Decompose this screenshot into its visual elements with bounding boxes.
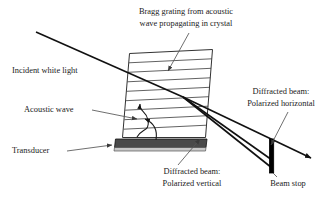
label-acoustic-wave: Acoustic wave — [24, 105, 74, 114]
label-diffracted-horizontal-line2: Polarized horizontal — [247, 99, 315, 108]
transducer-bar — [115, 139, 208, 148]
acousto-optic-diagram: Bragg grating from acoustic wave propaga… — [0, 0, 332, 203]
label-bragg-grating-line1: Bragg grating from acoustic — [139, 7, 233, 16]
label-incident-white-light: Incident white light — [12, 66, 78, 75]
leader-transducer — [67, 145, 112, 151]
label-diffracted-vertical-line2: Polarized vertical — [163, 179, 223, 188]
label-diffracted-horizontal-line1: Diffracted beam: — [253, 87, 310, 96]
label-diffracted-vertical-line1: Diffracted beam: — [164, 167, 221, 176]
transducer-element — [114, 139, 207, 151]
label-bragg-grating-line2: wave propagating in crystal — [140, 19, 233, 28]
label-beam-stop: Beam stop — [270, 179, 306, 188]
leader-beam-stop — [273, 173, 277, 177]
leader-diffracted-horizontal — [271, 112, 288, 145]
label-transducer: Transducer — [12, 146, 50, 155]
